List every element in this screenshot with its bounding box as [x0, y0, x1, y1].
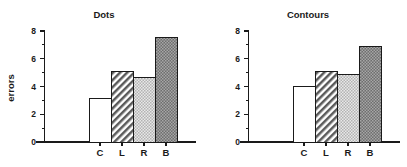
x-tick-label-c: C: [97, 147, 104, 158]
x-axis-ticks: [304, 142, 370, 146]
figure-two-panel-bar-charts: Dots errors 8 6 4 2 0: [0, 0, 407, 167]
bar-chart-dots: Dots errors 8 6 4 2 0: [0, 0, 204, 167]
y-tick-label-2: 2: [235, 109, 240, 119]
bar-b: [359, 46, 381, 142]
x-tick-label-b: B: [366, 147, 373, 158]
bar-r: [337, 75, 359, 142]
y-tick-label-4: 4: [235, 82, 240, 92]
y-tick-label-0: 0: [235, 137, 240, 147]
y-tick-label-6: 6: [235, 54, 240, 64]
y-axis-ticks: [40, 31, 45, 142]
x-axis-ticks: [100, 142, 166, 146]
x-tick-label-r: R: [141, 147, 148, 158]
y-tick-label-8: 8: [235, 26, 240, 36]
x-tick-label-b: B: [163, 147, 170, 158]
bar-c: [89, 98, 111, 142]
bar-b: [155, 38, 177, 142]
x-tick-label-c: C: [300, 147, 307, 158]
bar-l: [315, 72, 337, 142]
bar-l: [111, 72, 133, 142]
bar-chart-contours: Contours 8 6 4 2 0: [204, 0, 407, 167]
y-tick-label-4: 4: [31, 82, 36, 92]
chart-title: Dots: [93, 9, 114, 20]
y-axis-ticks: [243, 31, 248, 142]
x-tick-label-l: L: [323, 147, 329, 158]
chart-panel-contours: Contours 8 6 4 2 0: [204, 0, 407, 167]
y-tick-label-2: 2: [31, 109, 36, 119]
chart-title: Contours: [286, 9, 328, 20]
bars-group: [293, 46, 381, 142]
x-tick-label-r: R: [344, 147, 351, 158]
y-tick-label-8: 8: [31, 26, 36, 36]
bars-group: [89, 38, 177, 142]
x-tick-label-l: L: [119, 147, 125, 158]
bar-c: [293, 87, 315, 143]
chart-panel-dots: Dots errors 8 6 4 2 0: [0, 0, 204, 167]
y-axis-label: errors: [5, 74, 16, 101]
y-tick-label-0: 0: [31, 137, 36, 147]
y-tick-label-6: 6: [31, 54, 36, 64]
bar-r: [133, 77, 155, 142]
